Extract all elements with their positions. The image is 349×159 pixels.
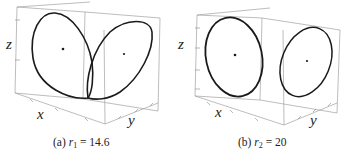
- caption-b-value: = 20: [263, 136, 287, 148]
- panel-b-orbit-right: [270, 20, 341, 105]
- panel-b-orbits: [198, 12, 341, 104]
- caption-b-prefix: (b): [238, 136, 254, 148]
- caption-a-prefix: (a): [53, 136, 69, 148]
- caption-a-value: = 14.6: [77, 136, 109, 148]
- panel-b-x-axis-label: x: [215, 104, 222, 121]
- panel-a-fixed-point-left: [62, 48, 65, 51]
- panel-a-z-axis-label: z: [6, 36, 12, 53]
- panel-a-x-axis-label: x: [37, 106, 44, 123]
- caption-a: (a) r1 = 14.6: [53, 136, 110, 150]
- panel-a-orbit: [32, 13, 152, 99]
- panel-a-y-axis-label: y: [128, 112, 135, 129]
- panel-b-y-axis-label: y: [310, 112, 317, 129]
- panel-b-orbit-left: [198, 12, 269, 102]
- panel-b-fixed-point-right: [306, 60, 308, 62]
- caption-b: (b) r2 = 20: [238, 136, 287, 150]
- panel-a-fixed-point-right: [123, 53, 125, 55]
- panel-b-fixed-point-left: [234, 54, 237, 57]
- panel-b-z-axis-label: z: [178, 36, 184, 53]
